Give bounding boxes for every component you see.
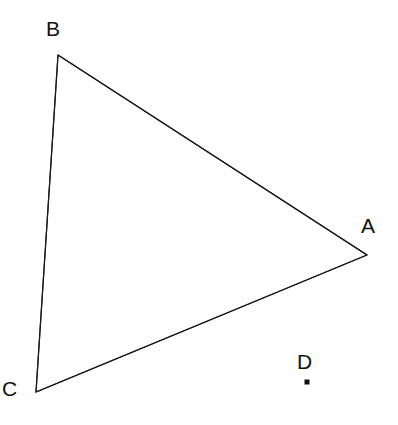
vertex-label-a: A [361, 215, 375, 236]
point-d-marker [305, 380, 310, 385]
figure-background [0, 0, 398, 425]
vertex-label-c: C [2, 378, 17, 399]
vertex-label-b: B [46, 18, 60, 39]
figure-canvas [0, 0, 398, 425]
geometry-figure: B A C D [0, 0, 398, 425]
point-label-d: D [297, 351, 312, 372]
